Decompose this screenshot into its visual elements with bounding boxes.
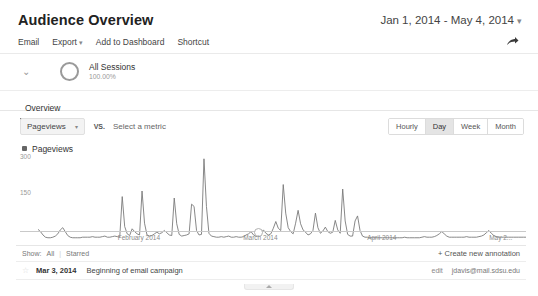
chevron-down-icon: ▾ [79,39,83,46]
granularity-month[interactable]: Month [488,119,523,134]
vs-label: VS. [94,123,105,130]
all-sessions-donut-icon [60,62,79,81]
segment-info[interactable]: All Sessions 100.00% [89,62,135,82]
share-icon[interactable] [506,37,519,47]
legend-label-pageviews: Pageviews [32,144,73,154]
legend-color-swatch [22,146,27,151]
chart-legend: Pageviews [0,142,538,154]
create-new-annotation-button[interactable]: + Create new annotation [438,249,520,258]
granularity-hourly[interactable]: Hourly [389,119,426,134]
secondary-metric-dropdown[interactable]: Select a metric [113,122,166,131]
primary-metric-label: Pageviews [27,122,66,131]
table-row: ☆ Mar 3, 2014 Beginning of email campaig… [16,262,526,280]
shortcut-button[interactable]: Shortcut [177,37,209,47]
segment-expand-chevron-icon[interactable]: ⌄ [22,67,38,77]
granularity-week[interactable]: Week [454,119,488,134]
granularity-day[interactable]: Day [426,119,454,134]
chevron-down-icon: ▾ [75,123,78,130]
export-button[interactable]: Export▾ [52,37,83,47]
date-range-label: Jan 1, 2014 - May 4, 2014 [380,14,514,26]
y-axis-tick-300: 300 [20,153,31,160]
x-axis-tick-1: March 2014 [243,234,277,241]
segment-name: All Sessions [89,62,135,73]
x-axis-tick-3: May 2... [489,234,512,241]
annotations-panel: Show: All | Starred + Create new annotat… [16,245,526,280]
filter-all[interactable]: All [46,250,54,257]
report-toolbar: Email Export▾ Add to Dashboard Shortcut [0,28,538,54]
page-title: Audience Overview [18,10,153,28]
primary-metric-dropdown[interactable]: Pageviews ▾ [20,118,85,135]
date-range-picker[interactable]: Jan 1, 2014 - May 4, 2014▾ [380,10,522,26]
annotations-panel-collapse-handle[interactable] [244,284,294,290]
annotation-date: Mar 3, 2014 [36,266,76,275]
filter-separator: | [59,250,61,257]
annotations-filter-bar: Show: All | Starred + Create new annotat… [16,246,526,262]
email-button[interactable]: Email [18,37,39,47]
annotation-edit-link[interactable]: edit [432,267,443,274]
analytics-audience-overview-page: Audience Overview Jan 1, 2014 - May 4, 2… [0,0,538,296]
add-to-dashboard-button[interactable]: Add to Dashboard [96,37,165,47]
x-axis-tick-0: February 2014 [118,234,160,241]
annotation-owner-email: jdavis@mail.sdsu.edu [452,267,520,274]
y-axis-tick-150: 150 [20,189,31,196]
chart-plot-area [38,156,526,240]
granularity-button-group: Hourly Day Week Month [388,118,524,135]
chart-line-svg [38,156,526,240]
x-axis-tick-2: April 2014 [367,234,396,241]
pageviews-line-chart: 300 150 [20,156,526,240]
annotation-text: Beginning of email campaign [86,266,182,275]
chevron-down-icon: ▾ [517,16,522,26]
page-header: Audience Overview Jan 1, 2014 - May 4, 2… [0,0,538,28]
filter-starred[interactable]: Starred [66,250,89,257]
report-tabs: Overview [0,91,538,111]
star-icon[interactable]: ☆ [22,267,29,275]
x-axis-line [20,231,526,232]
segment-bar: ⌄ All Sessions 100.00% [0,54,538,91]
metric-selector-row: Pageviews ▾ VS. Select a metric Hourly D… [0,111,538,142]
show-label: Show: [22,250,41,257]
segment-percent: 100.00% [89,73,135,81]
export-label: Export [52,37,77,47]
